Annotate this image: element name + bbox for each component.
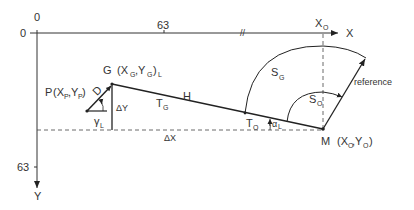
svg-text:X: X (315, 17, 323, 29)
origin-y-label: 0 (20, 27, 26, 39)
alpha-l-label: α L (272, 119, 282, 130)
y-axis (34, 30, 37, 188)
point-p (85, 109, 88, 112)
x-axis-label: X (346, 27, 354, 39)
svg-text:G: G (279, 74, 284, 81)
svg-text:,Y: ,Y (135, 64, 146, 76)
origin-x-label: 0 (34, 11, 40, 23)
m-label: M (X O ,Y O ) (321, 135, 373, 149)
g-label: G (X G ,Y G ) L (103, 64, 162, 78)
svg-text:G: G (163, 104, 168, 111)
svg-text:O: O (253, 124, 259, 131)
svg-text:S: S (309, 93, 316, 105)
svg-text:L: L (158, 71, 162, 78)
svg-text:S: S (271, 66, 278, 78)
x-axis: // (30, 28, 338, 38)
svg-text:P: P (45, 86, 52, 98)
reference-arrow (323, 59, 365, 129)
y-tick-label: 63 (17, 161, 29, 173)
delta-x-label: ΔX (164, 133, 176, 143)
svg-text:G: G (103, 64, 112, 76)
sg-label: S G (271, 66, 284, 81)
xo-label: X O (315, 17, 329, 31)
svg-text:M: M (321, 135, 330, 147)
h-label: H (183, 90, 191, 102)
delta-y-label: ΔY (116, 103, 128, 113)
p-label: P (X P ,Y P ) (45, 86, 86, 100)
so-label: S O (309, 93, 323, 107)
svg-text:(X: (X (337, 135, 349, 147)
to-label: T O (246, 117, 259, 131)
point-g (110, 82, 113, 85)
svg-text:T: T (156, 97, 163, 109)
svg-text:T: T (246, 117, 253, 129)
svg-text:(X: (X (53, 86, 65, 98)
svg-text:O: O (323, 24, 329, 31)
svg-text:O: O (317, 100, 323, 107)
svg-text:α: α (272, 119, 277, 129)
y-axis-label: Y (34, 190, 42, 202)
reference-label: reference (354, 77, 392, 87)
svg-text://: // (240, 28, 246, 38)
gamma-l-label: γ L (94, 115, 104, 129)
svg-text:,Y: ,Y (352, 135, 363, 147)
geometry-diagram: // 0 0 63 63 X Y X O G (X G ,Y G ) (0, 0, 414, 210)
sg-arc (245, 46, 366, 113)
svg-text:(X: (X (117, 64, 129, 76)
svg-text:): ) (369, 135, 373, 147)
x-tick-label: 63 (157, 19, 169, 31)
svg-text:G: G (147, 71, 152, 78)
svg-text:): ) (153, 64, 157, 76)
tg-label: T G (156, 97, 168, 111)
svg-text:L: L (278, 123, 282, 130)
svg-text:L: L (100, 122, 104, 129)
svg-text:): ) (82, 86, 86, 98)
